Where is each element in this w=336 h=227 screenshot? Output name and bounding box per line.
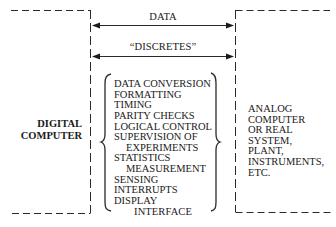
discretes-arrow-right-head xyxy=(226,54,234,60)
interface-label: INTERFACE xyxy=(113,207,213,218)
analog-system-label: ANALOG COMPUTER OR REAL SYSTEM, PLANT, I… xyxy=(248,104,324,178)
analog-label-line: ETC. xyxy=(248,168,324,179)
discretes-arrow-left-head xyxy=(92,54,100,60)
data-arrow-right-head xyxy=(226,23,234,29)
right-brace xyxy=(211,73,220,211)
digital-computer-label: DIGITAL COMPUTER xyxy=(20,118,82,142)
digital-label-line: COMPUTER xyxy=(20,130,82,142)
analog-label-line: INSTRUMENTS, xyxy=(248,157,324,168)
interface-diagram: DATA “DISCRETES” DIGITAL COMPUTER DATA C… xyxy=(0,0,336,227)
data-arrow-label: DATA xyxy=(113,12,213,23)
analog-label-line: ANALOG xyxy=(248,104,324,115)
interface-functions-list: DATA CONVERSION FORMATTING TIMING PARITY… xyxy=(114,79,212,207)
function-item: PARITY CHECKS xyxy=(114,111,212,122)
left-brace xyxy=(101,74,111,211)
data-arrow-left-head xyxy=(92,23,100,29)
discretes-arrow-label: “DISCRETES” xyxy=(113,42,213,53)
digital-label-line: DIGITAL xyxy=(20,118,82,130)
